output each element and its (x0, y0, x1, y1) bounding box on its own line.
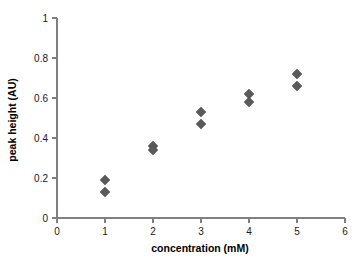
data-point-marker (196, 107, 206, 117)
chart-canvas: 0123456 00.20.40.60.81 concentration (mM… (0, 0, 362, 263)
data-point-marker (292, 81, 302, 91)
x-tick-label: 0 (54, 226, 60, 237)
data-point-marker (100, 187, 110, 197)
data-point-marker (196, 119, 206, 129)
data-point-marker (100, 175, 110, 185)
data-point-marker (244, 97, 254, 107)
y-tick-label: 0.4 (34, 133, 48, 144)
data-points (100, 69, 302, 197)
x-tick-label: 3 (198, 226, 204, 237)
scatter-chart: 0123456 00.20.40.60.81 concentration (mM… (0, 0, 362, 263)
y-axis-title: peak height (AU) (6, 78, 18, 161)
axes (57, 18, 345, 218)
data-point-marker (292, 69, 302, 79)
y-tick-label: 0.6 (34, 93, 48, 104)
x-tick-label: 2 (150, 226, 156, 237)
x-axis-title: concentration (mM) (151, 242, 248, 254)
y-tick-label: 0 (42, 213, 48, 224)
x-tick-label: 1 (102, 226, 108, 237)
y-tick-label: 0.8 (34, 53, 48, 64)
x-axis-ticks: 0123456 (54, 218, 348, 237)
y-tick-label: 1 (42, 13, 48, 24)
x-tick-label: 5 (294, 226, 300, 237)
x-tick-label: 4 (246, 226, 252, 237)
y-tick-label: 0.2 (34, 173, 48, 184)
y-axis-ticks: 00.20.40.60.81 (34, 13, 57, 224)
x-tick-label: 6 (342, 226, 348, 237)
